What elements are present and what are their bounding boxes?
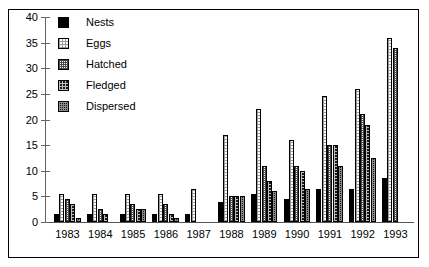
bar — [393, 48, 398, 222]
bar — [272, 191, 277, 222]
bar — [371, 158, 376, 222]
bar-group — [316, 17, 343, 222]
bar — [92, 194, 97, 222]
bar — [234, 196, 239, 222]
y-tick-label: 20 — [0, 115, 38, 126]
bar — [349, 189, 354, 222]
y-tick-label-text: 5 — [14, 191, 38, 202]
bar — [169, 214, 174, 222]
legend-swatch-icon — [58, 38, 69, 49]
bar — [163, 204, 168, 222]
legend-swatch-icon — [58, 101, 69, 112]
bar — [174, 218, 179, 222]
y-tick-label-text: 15 — [14, 140, 38, 151]
bar — [300, 171, 305, 222]
bar — [152, 214, 157, 222]
bar-group — [218, 17, 245, 222]
legend-label: Fledged — [86, 78, 126, 92]
bar — [125, 194, 130, 222]
bar — [103, 214, 108, 222]
bar — [130, 204, 135, 222]
bar — [229, 196, 234, 222]
y-tick-label: 40 — [0, 12, 38, 23]
bar — [70, 204, 75, 222]
bar — [256, 109, 261, 222]
legend-label: Eggs — [86, 36, 111, 50]
legend-label: Hatched — [86, 57, 127, 71]
y-tick-label-text: 40 — [14, 12, 38, 23]
bar — [59, 194, 64, 222]
legend-swatch-icon — [58, 59, 69, 70]
bar — [98, 209, 103, 222]
y-tick-label: 0 — [0, 217, 38, 228]
bar — [136, 209, 141, 222]
bar-group — [152, 17, 179, 222]
bar — [76, 218, 81, 222]
bar — [185, 214, 190, 222]
y-tick-label-text: 25 — [14, 89, 38, 100]
bar — [240, 196, 245, 222]
bar — [87, 214, 92, 222]
bar — [387, 38, 392, 223]
y-tick-label-text: 35 — [14, 38, 38, 49]
bar — [338, 166, 343, 222]
legend-swatch-icon — [58, 80, 69, 91]
y-tick-label: 30 — [0, 63, 38, 74]
bar — [333, 145, 338, 222]
bar-group — [120, 17, 147, 222]
bar — [218, 202, 223, 223]
bar — [305, 189, 310, 222]
y-tick-label-text: 20 — [14, 115, 38, 126]
bar — [355, 89, 360, 222]
bar — [289, 140, 294, 222]
bar-group — [349, 17, 376, 222]
bar — [65, 199, 70, 222]
y-tick-label-text: 10 — [14, 166, 38, 177]
bar — [141, 209, 146, 222]
bar — [327, 145, 332, 222]
bar-group — [284, 17, 311, 222]
y-tick-label: 15 — [0, 140, 38, 151]
bar-group — [185, 17, 212, 222]
bar — [365, 125, 370, 222]
y-tick-label: 35 — [0, 38, 38, 49]
y-tick-label: 5 — [0, 191, 38, 202]
bar — [284, 199, 289, 222]
bar — [120, 214, 125, 222]
legend-swatch-icon — [58, 17, 69, 28]
legend-label: Nests — [86, 15, 114, 29]
bar — [316, 189, 321, 222]
bar — [54, 214, 59, 222]
bar — [322, 96, 327, 222]
bar — [267, 181, 272, 222]
bar-group — [251, 17, 278, 222]
chart-figure: 0510152025303540 19831984198519861987198… — [0, 0, 429, 267]
y-tick-label-text: 0 — [14, 217, 38, 228]
bar — [360, 114, 365, 222]
bar — [294, 166, 299, 222]
bar — [158, 194, 163, 222]
y-tick-label-text: 30 — [14, 63, 38, 74]
bar — [382, 178, 387, 222]
bar — [262, 166, 267, 222]
legend-label: Dispersed — [86, 99, 136, 113]
bar — [251, 194, 256, 222]
y-tick-mark — [41, 222, 50, 223]
y-tick-label: 25 — [0, 89, 38, 100]
bar — [223, 135, 228, 222]
bar — [191, 189, 196, 222]
bar-group — [382, 17, 409, 222]
y-tick-label: 10 — [0, 166, 38, 177]
x-axis-line — [45, 222, 414, 223]
x-tick-label: 1993 — [376, 229, 416, 240]
